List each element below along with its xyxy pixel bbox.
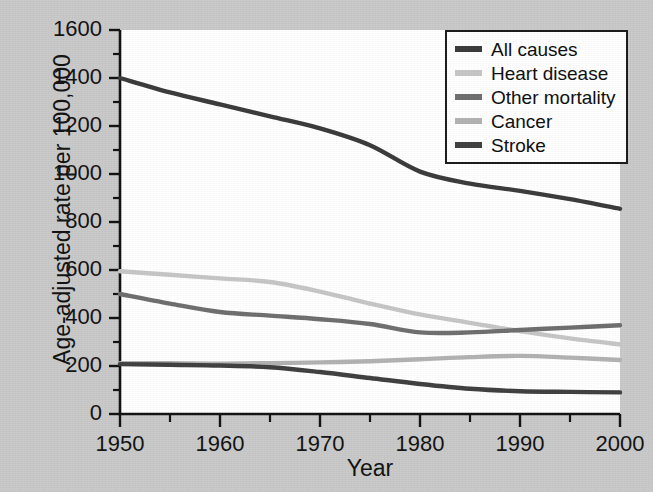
legend-item-stroke: Stroke bbox=[452, 133, 620, 157]
legend-swatch-stroke bbox=[455, 142, 482, 148]
x-tick-label: 1980 bbox=[377, 431, 463, 457]
legend-swatch-heart-disease bbox=[455, 70, 482, 76]
x-tick-label: 1950 bbox=[77, 431, 163, 457]
legend-label-stroke: Stroke bbox=[491, 136, 546, 155]
y-tick-label: 0 bbox=[16, 400, 102, 426]
legend-label-all-causes: All causes bbox=[491, 40, 578, 59]
legend-item-all-causes: All causes bbox=[452, 37, 620, 61]
legend-swatch-other-mortality bbox=[455, 94, 482, 100]
legend-item-other-mortality: Other mortality bbox=[452, 85, 620, 109]
legend-label-cancer: Cancer bbox=[491, 112, 552, 131]
y-tick-label: 200 bbox=[16, 352, 102, 378]
legend-label-other-mortality: Other mortality bbox=[491, 88, 616, 107]
y-tick-label: 1000 bbox=[16, 160, 102, 186]
legend-swatch-all-causes bbox=[455, 46, 482, 52]
x-axis-label: Year bbox=[120, 455, 620, 482]
legend-item-heart-disease: Heart disease bbox=[452, 61, 620, 85]
y-tick-label: 600 bbox=[16, 256, 102, 282]
legend-swatch-cancer bbox=[455, 118, 482, 124]
y-tick-label: 1600 bbox=[16, 16, 102, 42]
y-tick-label: 1200 bbox=[16, 112, 102, 138]
y-tick-label: 400 bbox=[16, 304, 102, 330]
chart-legend: All causes Heart disease Other mortality… bbox=[445, 30, 628, 164]
x-tick-label: 2000 bbox=[577, 431, 653, 457]
chart-figure: ated with the age-adjusted rates the com… bbox=[0, 0, 653, 492]
y-tick-label: 1400 bbox=[16, 64, 102, 90]
y-tick-label: 800 bbox=[16, 208, 102, 234]
legend-item-cancer: Cancer bbox=[452, 109, 620, 133]
x-tick-label: 1970 bbox=[277, 431, 363, 457]
x-tick-label: 1990 bbox=[477, 431, 563, 457]
legend-label-heart-disease: Heart disease bbox=[491, 64, 608, 83]
x-tick-label: 1960 bbox=[177, 431, 263, 457]
